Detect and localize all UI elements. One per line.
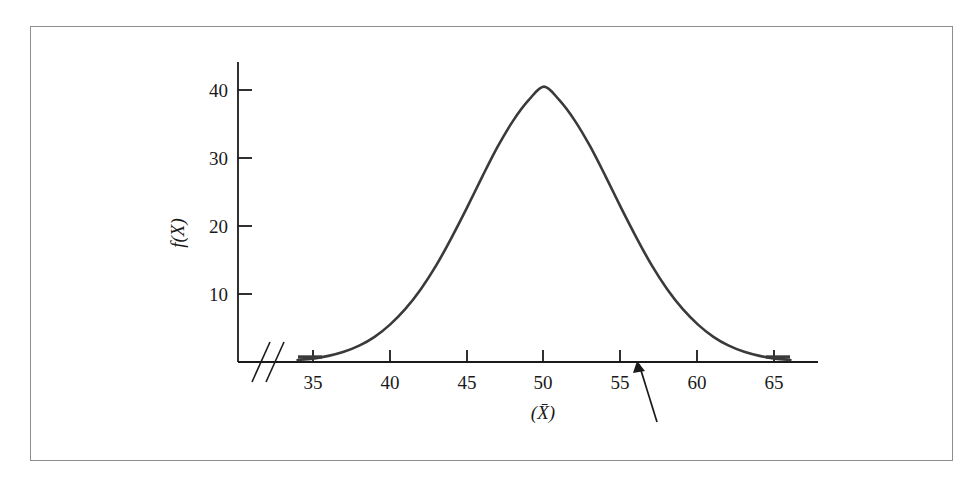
x-axis-title: (X̄) bbox=[531, 402, 555, 424]
x-tick-label-45: 45 bbox=[458, 372, 477, 393]
x-tick-label-40: 40 bbox=[381, 372, 400, 393]
y-axis-title: f(X) bbox=[167, 218, 189, 248]
x-tick-label-35: 35 bbox=[304, 372, 323, 393]
y-tick-label-20: 20 bbox=[209, 216, 228, 237]
y-tick-label-10: 10 bbox=[209, 284, 228, 305]
y-tick-label-30: 30 bbox=[209, 148, 228, 169]
x-tick-label-55: 55 bbox=[611, 372, 630, 393]
x-axis-ticks bbox=[313, 350, 774, 362]
y-axis-ticks bbox=[238, 90, 252, 294]
x-tick-label-65: 65 bbox=[765, 372, 784, 393]
x-tick-label-60: 60 bbox=[688, 372, 707, 393]
distribution-curve bbox=[298, 87, 791, 360]
y-tick-label-40: 40 bbox=[209, 80, 228, 101]
x-tick-label-50: 50 bbox=[534, 372, 553, 393]
pointer-arrow bbox=[633, 361, 657, 422]
normal-distribution-plot: 40 30 20 10 f(X) 35 40 45 50 55 60 65 ( bbox=[0, 0, 980, 484]
figure-root: 40 30 20 10 f(X) 35 40 45 50 55 60 65 ( bbox=[0, 0, 980, 484]
